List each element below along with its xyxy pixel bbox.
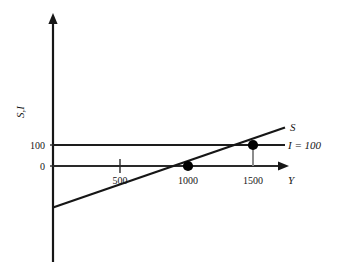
ytick-label-100: 100 (30, 140, 45, 151)
investment-line-label: I = 100 (287, 139, 322, 151)
marker-point-1500 (248, 140, 258, 150)
saving-investment-chart: S,I Y 100 0 500 1000 1500 S I = 100 (0, 0, 337, 275)
saving-curve-label: S (290, 121, 296, 133)
xtick-label-500: 500 (113, 175, 128, 186)
y-axis-arrow-icon (48, 13, 57, 24)
x-axis-title: Y (288, 174, 296, 186)
x-axis-arrow-icon (278, 161, 289, 170)
chart-canvas: S,I Y 100 0 500 1000 1500 S I = 100 (0, 0, 337, 275)
ytick-label-0: 0 (40, 161, 45, 172)
xtick-label-1500: 1500 (243, 175, 263, 186)
saving-line (53, 128, 285, 208)
y-axis-title: S,I (14, 105, 26, 118)
marker-point-1000 (183, 161, 193, 171)
xtick-label-1000: 1000 (178, 175, 198, 186)
